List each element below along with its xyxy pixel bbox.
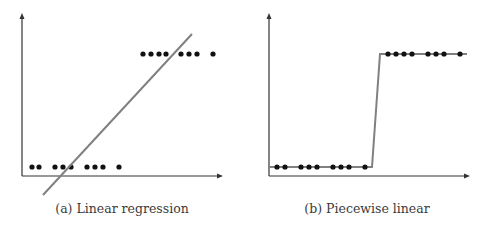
data-point (362, 164, 367, 169)
panel-piecewise-linear: (b) Piecewise linear (245, 0, 489, 235)
x-axis-arrow-icon (464, 174, 470, 179)
axes (267, 13, 471, 179)
data-point (433, 51, 438, 56)
caption-piecewise-linear: (b) Piecewise linear (245, 201, 489, 216)
data-point (274, 164, 279, 169)
data-point (393, 51, 398, 56)
data-point (282, 164, 287, 169)
data-point (425, 51, 430, 56)
data-point (457, 51, 462, 56)
piecewise-linear-plot (0, 0, 489, 235)
data-point (409, 51, 414, 56)
data-point (385, 51, 390, 56)
data-point (298, 164, 303, 169)
data-points (274, 51, 462, 169)
data-point (401, 51, 406, 56)
data-point (314, 164, 319, 169)
data-point (338, 164, 343, 169)
data-point (330, 164, 335, 169)
data-point (306, 164, 311, 169)
piecewise-line (269, 54, 467, 167)
data-point (441, 51, 446, 56)
y-axis-arrow-icon (267, 13, 272, 19)
data-point (346, 164, 351, 169)
